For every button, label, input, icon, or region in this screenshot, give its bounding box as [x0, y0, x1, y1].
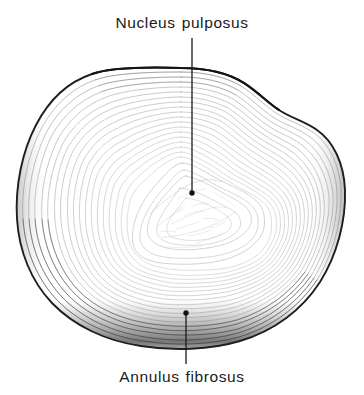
label-nucleus-word1: Nucleus	[115, 14, 175, 31]
label-nucleus-pulposus: Nucleuspulposus	[0, 14, 364, 32]
annulus-fibrosus-lamellae	[0, 0, 364, 395]
label-annulus-fibrosus: Annulusfibrosus	[0, 368, 364, 386]
disc-illustration	[0, 0, 364, 395]
label-annulus-word2: fibrosus	[186, 368, 245, 385]
label-nucleus-word2: pulposus	[182, 14, 249, 31]
anatomical-figure: Nucleuspulposus Annulusfibrosus	[0, 0, 364, 395]
label-annulus-word1: Annulus	[119, 368, 179, 385]
leader-dot-nucleus	[189, 190, 194, 195]
